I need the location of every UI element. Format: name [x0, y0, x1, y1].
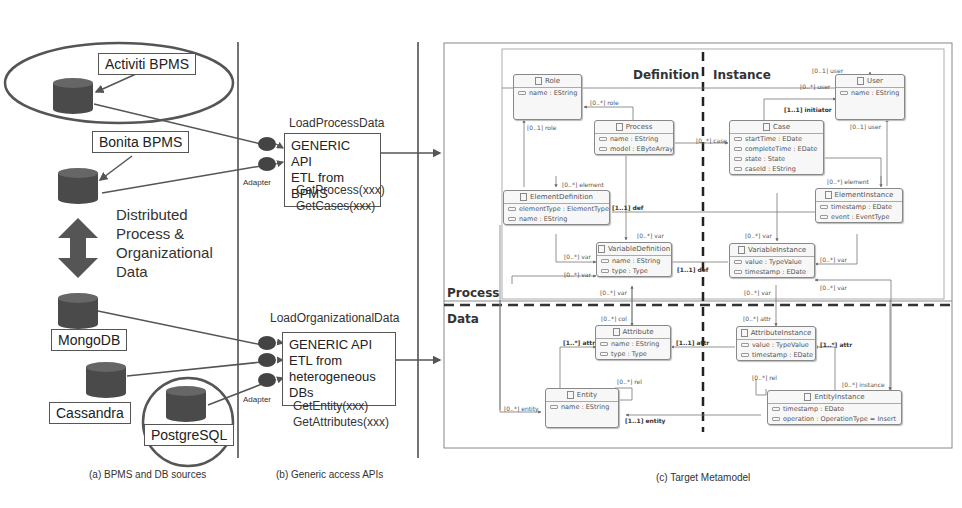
class-role: Role name : EString	[513, 74, 582, 120]
class-entity: Entity name : EString	[545, 388, 619, 428]
attribute-icon	[734, 167, 742, 171]
class-case: Case startTime : EDate completeTime : ED…	[729, 120, 824, 175]
section-instance: Instance	[713, 68, 771, 82]
class-variable-instance: VariableInstance value : TypeValue times…	[729, 243, 815, 278]
rel-role-left: [0..1] role	[527, 124, 556, 131]
activiti-bpms-label: Activiti BPMS	[98, 53, 196, 75]
rel-role-top: [0..*] role	[590, 99, 619, 106]
bonita-database-icon	[58, 168, 98, 204]
class-element-definition: ElementDefinition elementType : ElementT…	[503, 190, 610, 225]
distributed-data-label: Distributed Process & Organizational Dat…	[116, 205, 213, 281]
rel-col: [0..*] col	[601, 315, 627, 322]
class-icon	[763, 123, 770, 131]
section-definition: Definition	[633, 68, 699, 82]
class-element-instance: ElementInstance timestamp : EDate event …	[815, 188, 903, 223]
attribute-icon	[550, 405, 558, 409]
rel-initiator: [1..1] initiator	[784, 106, 832, 113]
rel-var-vi-right: [0..*] var	[820, 284, 847, 291]
load-organizational-data-title: LoadOrganizationalData	[270, 311, 399, 325]
attribute-icon	[734, 147, 742, 151]
class-icon	[738, 246, 745, 254]
rel-def-top: [1..1] def	[612, 204, 643, 211]
attribute-icon	[734, 270, 742, 274]
rel-attr-entity: [1..*] attr	[563, 339, 595, 346]
organizational-generic-api-box: GENERIC API ETL from heterogeneous DBs	[282, 332, 396, 406]
attribute-icon	[741, 353, 749, 357]
postgresql-label: PostgreSQL	[144, 424, 234, 446]
attribute-icon	[508, 217, 516, 221]
rel-element-inst: [0..*] element	[827, 178, 869, 185]
rel-attr-inst: [0..*] attr	[743, 315, 771, 322]
rel-var-vi-bottom: [0..*] var	[744, 289, 771, 296]
rel-var-ed: [0..*] var	[564, 253, 591, 260]
class-icon	[613, 328, 620, 336]
attribute-icon	[601, 259, 609, 263]
cassandra-database-icon	[86, 362, 126, 398]
attribute-icon	[840, 91, 848, 95]
class-attribute-instance: AttributeInstance value : TypeValue time…	[736, 326, 816, 361]
class-variable-definition: VariableDefinition name : EString type :…	[596, 242, 672, 277]
attribute-icon	[820, 215, 828, 219]
attribute-icon	[820, 205, 828, 209]
double-arrow-icon	[56, 218, 100, 278]
attribute-icon	[734, 137, 742, 141]
rel-user-right: [0..1] user	[850, 123, 881, 130]
panel-c-caption: (c) Target Metamodel	[656, 472, 750, 483]
class-icon	[616, 123, 623, 131]
attribute-icon	[772, 417, 780, 421]
attribute-icon	[741, 343, 749, 347]
class-icon	[520, 193, 527, 201]
section-process: Process	[447, 286, 500, 300]
rel-user-many: [0..*] user	[800, 83, 830, 90]
rel-var-bottom: [0..*] var	[600, 289, 627, 296]
adapter-label: Adapter	[243, 395, 271, 404]
cassandra-label: Cassandra	[49, 402, 131, 424]
rel-instance: [0..*] instance	[842, 381, 885, 388]
attribute-icon	[600, 342, 608, 346]
attribute-icon	[599, 137, 607, 141]
adapter-icon	[258, 137, 276, 151]
class-icon	[598, 245, 605, 253]
adapter-icon	[258, 353, 276, 367]
class-icon	[804, 393, 811, 401]
activiti-database-icon	[53, 78, 93, 114]
rel-user-top: [0..1] user	[812, 67, 843, 74]
adapter-icon	[258, 157, 276, 171]
attribute-icon	[601, 269, 609, 273]
attribute-icon	[518, 91, 526, 95]
process-api-methods: GetProcess(xxx) GetCases(xxx)	[296, 182, 385, 214]
adapter-icon	[258, 336, 276, 350]
rel-case: [0..*] case	[696, 137, 727, 144]
class-icon	[567, 391, 574, 399]
rel-def-bottom: [1..1] def	[677, 266, 708, 273]
rel-attr-ei: [1..*] attr	[820, 341, 852, 348]
org-api-methods: GetEntity(xxx) GetAttributes(xxx)	[293, 398, 389, 430]
rel-entity-left: [0..*] entity	[504, 405, 539, 412]
load-process-data-title: LoadProcessData	[289, 116, 384, 130]
rel-var-vi-top: [0..*] var	[745, 232, 772, 239]
attribute-icon	[600, 352, 608, 356]
attribute-icon	[734, 157, 742, 161]
postgresql-database-icon	[166, 386, 206, 422]
class-user: User name : EString	[835, 74, 905, 120]
section-data: Data	[447, 312, 479, 326]
rel-attr-def: [1..1] attr	[676, 339, 709, 346]
rel-rel-ai: [0..*] rel	[752, 374, 777, 381]
mongodb-database-icon	[58, 293, 98, 329]
attribute-icon	[734, 260, 742, 264]
rel-var-vd-top: [0..*] var	[637, 232, 664, 239]
rel-entity-def: [1..1] entity	[625, 417, 666, 424]
attribute-icon	[772, 407, 780, 411]
panel-a-caption: (a) BPMS and DB sources	[89, 469, 206, 480]
rel-rel-entity: [0..*] rel	[617, 378, 642, 385]
adapter-icon	[258, 373, 276, 387]
class-icon	[857, 77, 864, 85]
panel-b-caption: (b) Generic access APIs	[276, 469, 383, 480]
class-process: Process name : EString model : EByteArra…	[594, 120, 674, 155]
class-icon	[825, 191, 832, 199]
class-attribute: Attribute name : EString type : Type	[595, 325, 671, 360]
rel-var-ei: [0..*] var	[820, 256, 847, 263]
attribute-icon	[508, 207, 516, 211]
attribute-icon	[599, 147, 607, 151]
rel-element-def: [0..*] element	[562, 181, 604, 188]
